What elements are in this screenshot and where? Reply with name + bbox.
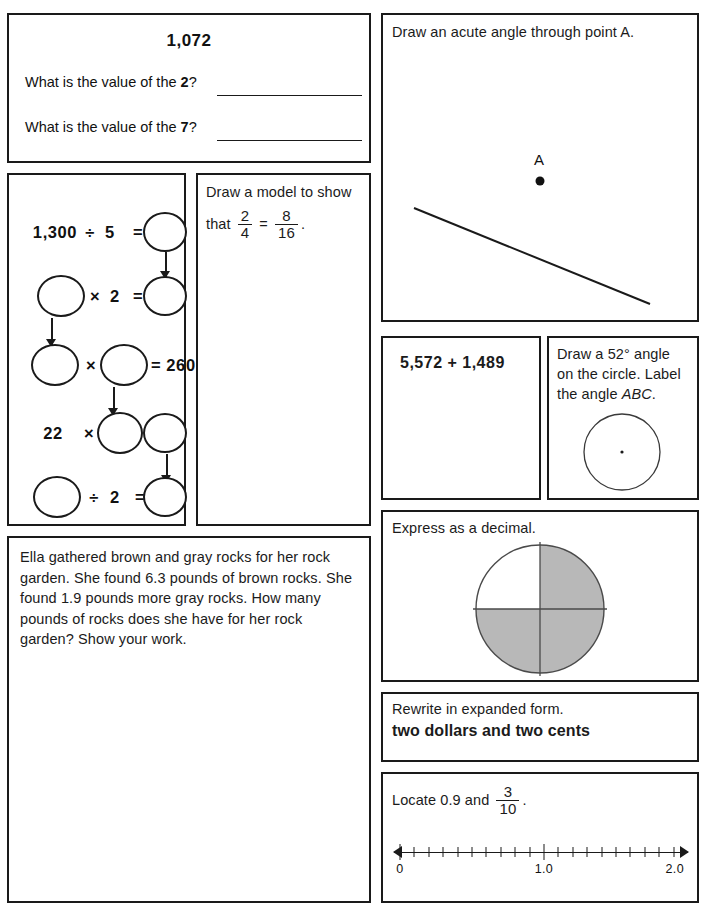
number-line-tick-1 bbox=[543, 844, 544, 860]
problem-box-expanded-form: Rewrite in expanded form. two dollars an… bbox=[381, 692, 699, 762]
flow-row-3-equals: = bbox=[151, 356, 161, 375]
flow-answer-circle-1[interactable] bbox=[143, 212, 187, 252]
number-line-tick-1-4 bbox=[601, 847, 602, 857]
flow-row-4-op: × bbox=[84, 424, 94, 443]
answer-blank-1[interactable] bbox=[217, 95, 362, 96]
fraction-two-fourths: 2 4 bbox=[238, 208, 252, 241]
flow-row-5-op: ÷ bbox=[89, 488, 99, 507]
fraction-b-denominator: 16 bbox=[275, 224, 298, 241]
number-line-tick-1-1 bbox=[558, 847, 559, 857]
acute-angle-figure[interactable] bbox=[383, 15, 701, 324]
problem-box-place-value: 1,072 What is the value of the 2? What i… bbox=[7, 13, 371, 163]
problem-box-addition: 5,572 + 1,489 bbox=[381, 336, 541, 500]
number-line-tick-1-3 bbox=[587, 847, 588, 857]
question-1-suffix: ? bbox=[189, 74, 197, 90]
flow-answer-circle-3[interactable] bbox=[143, 276, 187, 316]
angle-ray-line bbox=[414, 208, 650, 304]
problem-box-express-decimal: Express as a decimal. bbox=[381, 510, 699, 682]
flow-row-4-left: 22 bbox=[43, 424, 63, 443]
fraction-model-work-area[interactable] bbox=[202, 271, 365, 520]
fraction-a-numerator: 2 bbox=[238, 208, 252, 224]
fraction-model-line-2: that 2 4 = 8 16 . bbox=[206, 208, 305, 241]
fraction-b-numerator: 8 bbox=[275, 208, 298, 224]
number-line-tick-0 bbox=[399, 844, 400, 860]
number-line-fraction-denominator: 10 bbox=[496, 800, 519, 817]
flow-row-5-mid: 2 bbox=[110, 488, 120, 507]
fraction-equals: = bbox=[259, 216, 268, 232]
flow-row-1-equals: = bbox=[133, 223, 143, 242]
question-2-digit: 7 bbox=[181, 119, 189, 135]
number-line-tick-1-8 bbox=[659, 847, 660, 857]
addition-work-area[interactable] bbox=[387, 384, 535, 494]
number-line-tick-0-6 bbox=[486, 847, 487, 857]
flow-row-3-op: × bbox=[86, 356, 96, 375]
number-line-tick-0-7 bbox=[500, 847, 501, 857]
fraction-three-tenths: 3 10 bbox=[496, 784, 519, 817]
circle-angle-figure[interactable] bbox=[549, 338, 701, 502]
answer-blank-2[interactable] bbox=[217, 140, 362, 141]
number-line-label-1-0: 1.0 bbox=[535, 862, 554, 876]
question-2-suffix: ? bbox=[189, 119, 197, 135]
question-2-prefix: What is the value of the bbox=[25, 119, 181, 135]
place-value-question-2: What is the value of the 7? bbox=[25, 119, 197, 135]
flow-answer-circle-9[interactable] bbox=[143, 477, 187, 517]
question-1-prefix: What is the value of the bbox=[25, 74, 181, 90]
number-line-tick-1-9 bbox=[673, 847, 674, 857]
pie-quadrant-bottom-left bbox=[476, 609, 540, 673]
worksheet-page: 1,072 What is the value of the 2? What i… bbox=[0, 0, 706, 910]
expanded-form-value: two dollars and two cents bbox=[392, 720, 590, 741]
word-problem-work-area[interactable] bbox=[13, 668, 365, 897]
flow-answer-circle-2[interactable] bbox=[37, 275, 85, 317]
number-line-label-2-0: 2.0 bbox=[665, 862, 684, 876]
number-line-tick-0-4 bbox=[457, 847, 458, 857]
flow-row-2-equals: = bbox=[133, 287, 143, 306]
problem-box-flow-chart: 1,300 ÷ 5 = × 2 = × = 260 22 × = bbox=[7, 173, 186, 526]
number-line-tick-0-8 bbox=[515, 847, 516, 857]
problem-box-number-line: Locate 0.9 and 3 10 . bbox=[381, 772, 699, 903]
pie-quadrant-bottom-right bbox=[540, 609, 604, 673]
number-line-arrow-left bbox=[393, 846, 402, 858]
number-line-tick-0-5 bbox=[471, 847, 472, 857]
fraction-model-line-1: Draw a model to show bbox=[206, 183, 351, 202]
point-a-dot bbox=[536, 177, 545, 186]
number-line-tick-0-3 bbox=[443, 847, 444, 857]
number-line-tick-1-7 bbox=[644, 847, 645, 857]
problem-box-word-problem: Ella gathered brown and gray rocks for h… bbox=[7, 536, 371, 903]
number-line-axis[interactable]: 0 1.0 2.0 bbox=[394, 842, 688, 862]
place-value-number: 1,072 bbox=[9, 31, 369, 51]
number-line-label-0: 0 bbox=[396, 862, 403, 876]
flow-row-1-mid: 5 bbox=[105, 223, 115, 242]
addition-expression: 5,572 + 1,489 bbox=[400, 352, 505, 373]
place-value-question-1: What is the value of the 2? bbox=[25, 74, 197, 90]
flow-answer-circle-4[interactable] bbox=[31, 344, 79, 386]
number-line-tick-0-9 bbox=[529, 847, 530, 857]
decimal-pie-figure bbox=[383, 512, 701, 684]
word-problem-text: Ella gathered brown and gray rocks for h… bbox=[20, 547, 360, 650]
fraction-period: . bbox=[301, 216, 305, 232]
fraction-a-denominator: 4 bbox=[238, 224, 252, 241]
flow-answer-circle-5[interactable] bbox=[100, 344, 148, 386]
number-line-tick-1-6 bbox=[630, 847, 631, 857]
flow-row-2-mid: 2 bbox=[110, 287, 120, 306]
number-line-tick-1-2 bbox=[572, 847, 573, 857]
flow-row-2-op: × bbox=[90, 287, 100, 306]
number-line-prompt: Locate 0.9 and 3 10 . bbox=[392, 784, 527, 817]
number-line-fraction-numerator: 3 bbox=[496, 784, 519, 800]
flow-row-1-op: ÷ bbox=[85, 223, 95, 242]
problem-box-circle-angle: Draw a 52° angle on the circle. Label th… bbox=[547, 336, 699, 500]
flow-row-1-left: 1,300 bbox=[33, 223, 77, 242]
problem-box-fraction-model: Draw a model to show that 2 4 = 8 16 . bbox=[196, 173, 371, 526]
problem-box-acute-angle: Draw an acute angle through point A. A bbox=[381, 13, 699, 322]
flow-answer-circle-8[interactable] bbox=[33, 476, 81, 518]
number-line-tick-0-1 bbox=[414, 847, 415, 857]
point-a-label: A bbox=[534, 151, 544, 168]
angle-circle-center-dot bbox=[620, 450, 623, 453]
flow-answer-circle-6[interactable] bbox=[97, 412, 143, 454]
fraction-model-that: that bbox=[206, 216, 231, 232]
pie-quadrant-top-left bbox=[476, 545, 540, 609]
number-line-period: . bbox=[522, 792, 526, 808]
number-line-prompt-text: Locate 0.9 and bbox=[392, 792, 489, 808]
number-line-tick-1-5 bbox=[615, 847, 616, 857]
flow-answer-circle-7[interactable] bbox=[143, 413, 187, 453]
number-line-tick-0-2 bbox=[428, 847, 429, 857]
